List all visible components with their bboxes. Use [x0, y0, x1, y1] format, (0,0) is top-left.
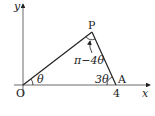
- origin-label: O: [16, 88, 25, 99]
- point-A-label: A: [118, 74, 126, 85]
- triangle-diagram: y x O P A 4 θ π−4θ 3θ: [0, 0, 155, 116]
- tick-4-label: 4: [113, 88, 120, 99]
- point-P-label: P: [88, 20, 95, 31]
- angle-O-label: θ: [37, 74, 44, 85]
- angle-P-label: π−4θ: [74, 55, 104, 66]
- angle-arc-O: [31, 79, 33, 85]
- angle-P-pointer: [90, 41, 92, 53]
- angle-arc-P: [86, 37, 95, 40]
- y-axis-label: y: [14, 1, 20, 12]
- angle-A-label: 3θ: [95, 74, 109, 85]
- x-axis-label: x: [142, 88, 148, 99]
